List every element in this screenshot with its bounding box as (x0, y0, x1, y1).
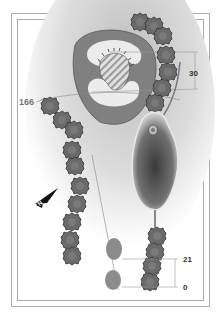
carry-distance-label: 166 (19, 97, 34, 107)
tee-far-label: 21 (183, 255, 192, 264)
hazard-marker-center (151, 128, 155, 132)
tee-near-label: 0 (183, 283, 188, 292)
green-depth-label: 30 (189, 69, 198, 78)
tee-box-near (105, 270, 121, 290)
golf-hole-diagram: 30 166 (0, 0, 222, 319)
